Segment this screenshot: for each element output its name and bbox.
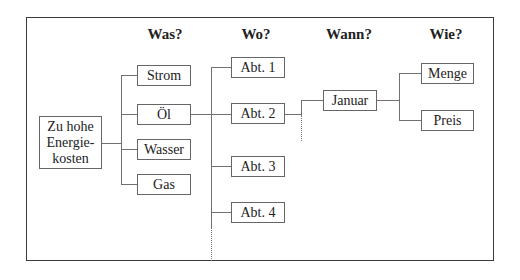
connector-root <box>102 143 121 144</box>
connector-abt2-out <box>285 114 301 115</box>
header-wo: Wo? <box>241 26 270 43</box>
bracket-was <box>121 75 122 184</box>
node-gas: Gas <box>137 174 191 195</box>
bracket-wie <box>399 73 400 121</box>
header-wie: Wie? <box>429 26 462 43</box>
node-root: Zu hohe Energie- kosten <box>39 116 102 169</box>
node-januar: Januar <box>323 90 377 111</box>
node-abt2: Abt. 2 <box>231 103 285 124</box>
connector-wasser <box>121 149 137 150</box>
node-strom: Strom <box>137 65 191 86</box>
bracket-wo <box>211 67 212 228</box>
node-abt1: Abt. 1 <box>231 57 285 78</box>
node-root-line-3: kosten <box>52 151 89 167</box>
node-oel: Öl <box>137 104 191 125</box>
connector-abt1 <box>211 67 231 68</box>
connector-januar <box>301 100 323 101</box>
connector-gas <box>121 184 137 185</box>
connector-abt3 <box>211 166 231 167</box>
bracket-wo-dotted-continuation <box>211 228 212 261</box>
header-wann: Wann? <box>326 26 372 43</box>
connector-preis <box>399 120 421 121</box>
bracket-wann <box>301 100 302 115</box>
node-menge: Menge <box>421 63 474 84</box>
node-root-line-2: Energie- <box>47 135 95 151</box>
connector-oel <box>121 114 137 115</box>
node-abt4: Abt. 4 <box>231 202 285 223</box>
node-abt3: Abt. 3 <box>231 156 285 177</box>
node-preis: Preis <box>421 110 474 131</box>
bracket-wann-dotted-continuation <box>301 115 302 141</box>
node-root-line-1: Zu hohe <box>47 119 93 135</box>
node-wasser: Wasser <box>137 139 191 160</box>
connector-menge <box>399 73 421 74</box>
header-was: Was? <box>147 26 182 43</box>
connector-januar-out <box>377 100 399 101</box>
connector-abt4 <box>211 212 231 213</box>
connector-strom <box>121 75 137 76</box>
